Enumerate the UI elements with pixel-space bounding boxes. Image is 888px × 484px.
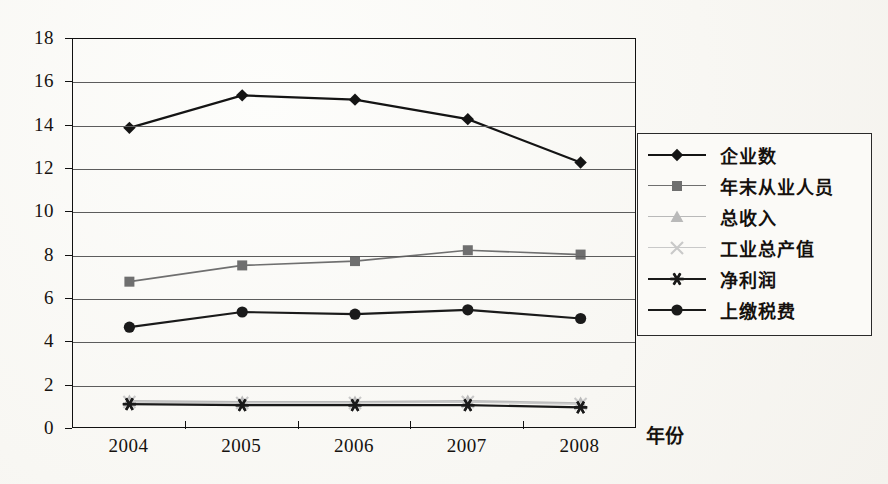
y-axis-tick bbox=[65, 255, 72, 256]
y-tick-label: 10 bbox=[20, 200, 54, 222]
legend-marker-icon bbox=[646, 206, 708, 228]
series-layer bbox=[73, 39, 637, 429]
x-axis-tick bbox=[185, 421, 186, 429]
y-tick-label: 6 bbox=[20, 287, 54, 309]
y-tick-label: 2 bbox=[20, 374, 54, 396]
series-6 bbox=[124, 304, 586, 333]
y-tick-label: 14 bbox=[20, 114, 54, 136]
legend-marker-icon bbox=[646, 268, 708, 290]
x-tick-label: 2008 bbox=[545, 435, 615, 457]
y-tick-label: 0 bbox=[20, 417, 54, 439]
y-tick-label: 4 bbox=[20, 330, 54, 352]
y-axis-tick bbox=[65, 168, 72, 169]
legend-item-3[interactable]: 总收入 bbox=[646, 202, 865, 232]
series-1 bbox=[123, 89, 587, 169]
legend-marker-icon bbox=[646, 144, 708, 166]
series-2 bbox=[124, 245, 585, 286]
y-tick-label: 16 bbox=[20, 70, 54, 92]
x-tick-label: 2004 bbox=[93, 435, 163, 457]
y-tick-label: 12 bbox=[20, 157, 54, 179]
legend-label: 年末从业人员 bbox=[708, 173, 834, 199]
gridline bbox=[73, 82, 635, 83]
legend-item-1[interactable]: 企业数 bbox=[646, 140, 865, 170]
y-axis-tick bbox=[65, 125, 72, 126]
legend-label: 工业总产值 bbox=[708, 235, 815, 261]
legend-marker-icon bbox=[646, 237, 708, 259]
legend-label: 总收入 bbox=[708, 204, 777, 230]
gridline bbox=[73, 386, 635, 387]
x-axis-title: 年份 bbox=[646, 421, 684, 448]
legend-label: 净利润 bbox=[708, 266, 777, 292]
x-tick-label: 2005 bbox=[206, 435, 276, 457]
y-tick-label: 18 bbox=[20, 27, 54, 49]
gridline bbox=[73, 256, 635, 257]
y-axis-tick bbox=[65, 38, 72, 39]
x-axis-tick bbox=[410, 421, 411, 429]
y-axis-tick bbox=[65, 428, 72, 429]
gridline bbox=[73, 212, 635, 213]
x-axis-tick bbox=[298, 421, 299, 429]
plot-area bbox=[72, 38, 636, 428]
line-chart: 024681012141618 20042005200620072008 年份 … bbox=[0, 0, 888, 484]
x-tick-label: 2007 bbox=[432, 435, 502, 457]
legend-item-5[interactable]: 净利润 bbox=[646, 264, 865, 294]
gridline bbox=[73, 169, 635, 170]
legend-marker-icon bbox=[646, 175, 708, 197]
legend-item-4[interactable]: 工业总产值 bbox=[646, 233, 865, 263]
legend-label: 上缴税费 bbox=[708, 297, 796, 323]
gridline bbox=[73, 342, 635, 343]
legend-label: 企业数 bbox=[708, 142, 777, 168]
gridline bbox=[73, 299, 635, 300]
y-tick-label: 8 bbox=[20, 244, 54, 266]
legend-item-6[interactable]: 上缴税费 bbox=[646, 295, 865, 325]
x-tick-label: 2006 bbox=[319, 435, 389, 457]
y-axis-tick bbox=[65, 298, 72, 299]
chart-legend: 企业数年末从业人员总收入工业总产值净利润上缴税费 bbox=[637, 133, 872, 336]
gridline bbox=[73, 126, 635, 127]
legend-item-2[interactable]: 年末从业人员 bbox=[646, 171, 865, 201]
y-axis-tick bbox=[65, 341, 72, 342]
legend-marker-icon bbox=[646, 299, 708, 321]
x-axis-tick bbox=[523, 421, 524, 429]
y-axis-tick bbox=[65, 385, 72, 386]
y-axis-tick bbox=[65, 81, 72, 82]
y-axis-tick bbox=[65, 211, 72, 212]
